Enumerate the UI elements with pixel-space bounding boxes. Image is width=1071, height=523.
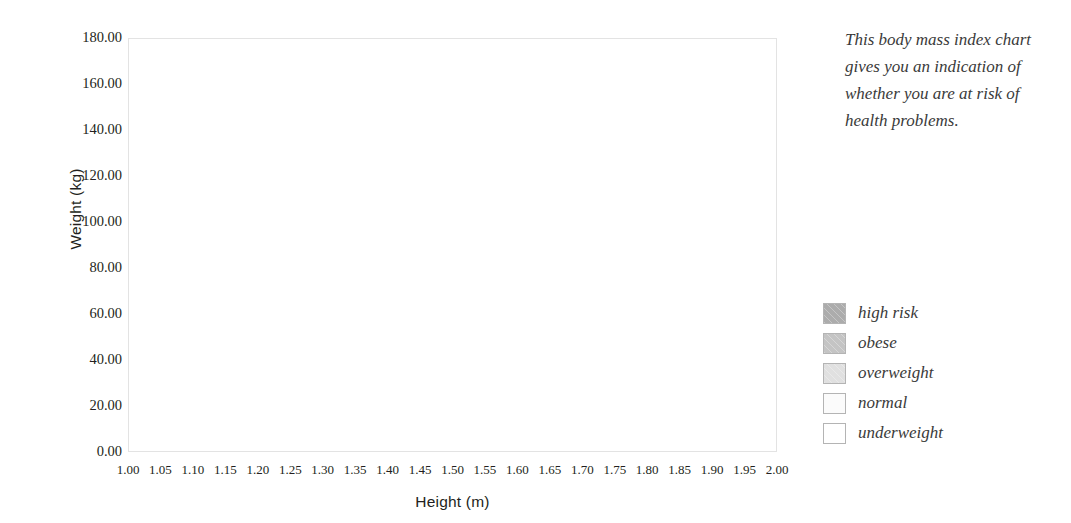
legend-label: overweight	[858, 363, 934, 383]
y-tick-label: 100.00	[52, 213, 122, 230]
legend-item-overweight: overweight	[823, 358, 1071, 388]
x-axis-ticks: 1.001.051.101.151.201.251.301.351.401.45…	[128, 462, 777, 484]
side-panel: This body mass index chart gives you an …	[823, 0, 1071, 523]
legend-label: normal	[858, 393, 907, 413]
x-tick-label: 2.00	[754, 462, 800, 478]
legend-swatch	[823, 303, 846, 324]
gridlines	[128, 38, 777, 452]
plot-area	[128, 38, 777, 452]
y-tick-label: 0.00	[52, 443, 122, 460]
y-tick-label: 140.00	[52, 121, 122, 138]
x-axis-title: Height (m)	[128, 493, 777, 511]
y-tick-label: 60.00	[52, 305, 122, 322]
y-tick-label: 80.00	[52, 259, 122, 276]
legend: high riskobeseoverweightnormalunderweigh…	[823, 298, 1071, 448]
y-axis-ticks: 0.0020.0040.0060.0080.00100.00120.00140.…	[48, 0, 122, 523]
legend-item-normal: normal	[823, 388, 1071, 418]
y-tick-label: 180.00	[52, 29, 122, 46]
chart-description: This body mass index chart gives you an …	[845, 26, 1061, 134]
legend-swatch	[823, 363, 846, 384]
legend-swatch	[823, 333, 846, 354]
legend-label: obese	[858, 333, 897, 353]
y-tick-label: 120.00	[52, 167, 122, 184]
y-tick-label: 20.00	[52, 397, 122, 414]
legend-item-obese: obese	[823, 328, 1071, 358]
y-axis-title: Weight (kg)	[67, 119, 85, 299]
bmi-bands-svg	[128, 38, 777, 452]
bmi-chart: 0.0020.0040.0060.0080.00100.00120.00140.…	[0, 0, 800, 523]
y-tick-label: 160.00	[52, 75, 122, 92]
legend-swatch	[823, 423, 846, 444]
legend-item-underweight: underweight	[823, 418, 1071, 448]
y-tick-label: 40.00	[52, 351, 122, 368]
legend-item-high-risk: high risk	[823, 298, 1071, 328]
legend-swatch	[823, 393, 846, 414]
legend-label: high risk	[858, 303, 918, 323]
legend-label: underweight	[858, 423, 943, 443]
